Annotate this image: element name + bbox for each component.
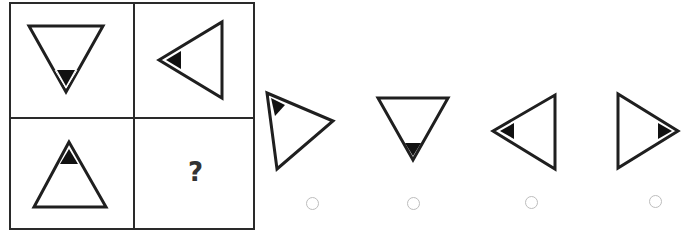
option-1-radio[interactable] [306,197,319,210]
option-4[interactable] [614,90,681,176]
question-mark: ? [188,157,203,187]
triangle-right-icon [614,90,681,176]
triangle-down-icon [374,94,454,166]
option-3[interactable] [490,91,560,177]
triangle-up-icon [11,119,133,230]
triangle-left-icon [135,4,255,117]
puzzle-grid: ? [9,2,255,230]
cell-bottom-right: ? [135,119,255,230]
triangle-down-icon [11,4,133,117]
option-2[interactable] [374,94,454,166]
cell-bottom-left [11,119,133,230]
option-3-radio[interactable] [525,196,538,209]
option-1[interactable] [262,88,338,178]
cell-top-right [135,4,255,117]
cell-top-left [11,4,133,117]
triangle-left-icon [490,91,560,177]
triangle-right-rotated-icon [262,88,338,178]
option-2-radio[interactable] [407,197,420,210]
option-4-radio[interactable] [649,195,662,208]
